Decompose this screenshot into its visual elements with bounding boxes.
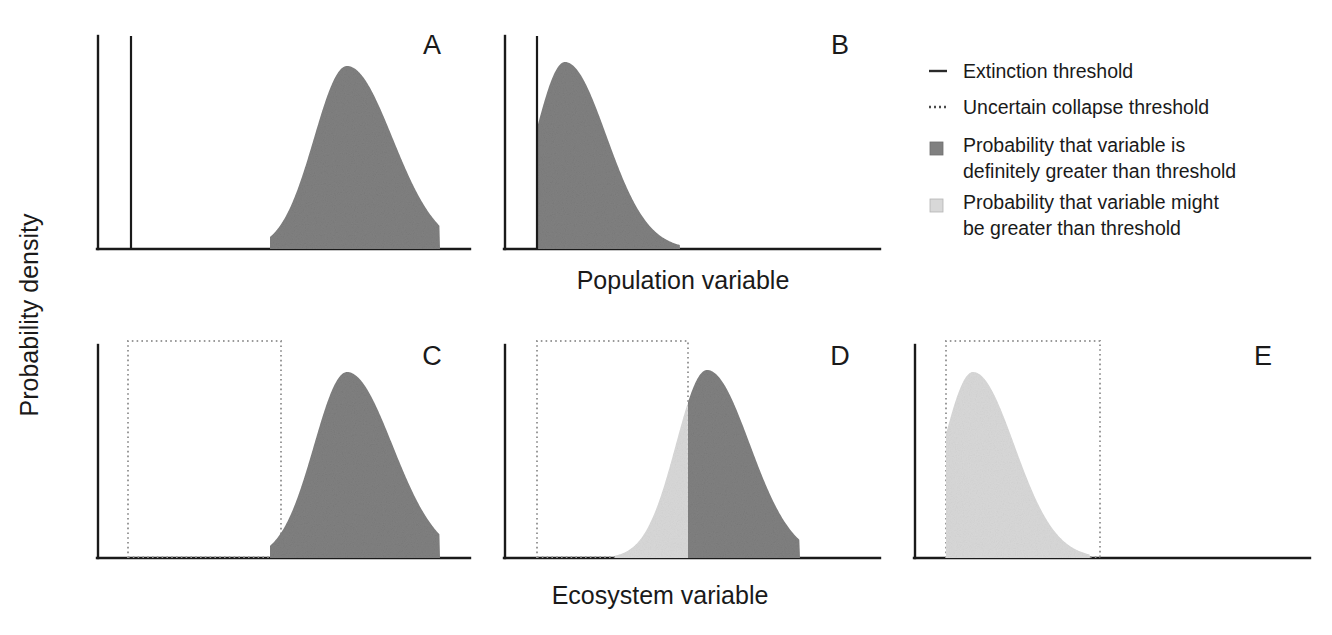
panel-letter-e: E: [1254, 341, 1272, 371]
figure-root: Probability density ABCDE Population var…: [0, 0, 1332, 635]
panel-a: A: [97, 30, 470, 249]
x-axis-label-bottom-group: Ecosystem variable: [552, 581, 769, 609]
legend-item-uncertain-collapse-threshold: Uncertain collapse threshold: [929, 96, 1209, 118]
panel-b-dark-area: [537, 62, 680, 249]
panel-c-dark-area: [270, 372, 440, 558]
legend-label-uncertain-collapse-threshold: Uncertain collapse threshold: [963, 96, 1209, 118]
light-swatch-icon: [930, 199, 943, 212]
panel-b: B: [504, 30, 880, 249]
legend-item-might-be-greater: Probability that variable might be great…: [930, 191, 1219, 239]
panel-d-dark-area: [688, 370, 800, 558]
panel-e-light-area: [946, 372, 1090, 558]
panel-letter-b: B: [831, 30, 849, 60]
legend-label-extinction-threshold: Extinction threshold: [963, 60, 1133, 82]
panel-letter-c: C: [422, 341, 442, 371]
dark-swatch-icon: [930, 142, 943, 155]
legend-label-might-be-greater-line1: Probability that variable might: [963, 191, 1219, 213]
panel-letter-a: A: [423, 30, 441, 60]
panel-c: C: [97, 341, 470, 558]
legend-item-definitely-greater: Probability that variable is definitely …: [930, 134, 1236, 182]
panel-a-dark-area: [270, 66, 440, 249]
legend-label-definitely-greater-line2: definitely greater than threshold: [963, 160, 1236, 182]
panel-e: E: [914, 341, 1310, 558]
legend-label-definitely-greater-line1: Probability that variable is: [963, 134, 1185, 156]
x-axis-label-population: Population variable: [577, 266, 790, 294]
distribution-figure: Probability density ABCDE Population var…: [0, 0, 1332, 635]
panel-d: D: [504, 341, 880, 558]
legend-item-extinction-threshold: Extinction threshold: [929, 60, 1133, 82]
y-axis-label: Probability density: [15, 213, 43, 416]
y-axis-label-group: Probability density: [15, 213, 43, 416]
panel-c-uncertain-collapse-threshold-box: [128, 341, 281, 558]
legend: Extinction threshold Uncertain collapse …: [929, 60, 1236, 239]
panel-d-light-area: [615, 403, 688, 558]
legend-label-might-be-greater-line2: be greater than threshold: [963, 217, 1181, 239]
panel-letter-d: D: [830, 341, 850, 371]
x-axis-label-ecosystem: Ecosystem variable: [552, 581, 769, 609]
x-axis-label-top-group: Population variable: [577, 266, 790, 294]
